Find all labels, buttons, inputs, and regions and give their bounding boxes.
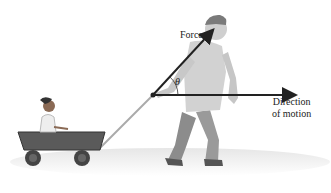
direction-label-line1: Direction bbox=[272, 96, 311, 108]
direction-label-line2: of motion bbox=[272, 108, 311, 120]
force-label: Force bbox=[180, 29, 203, 41]
vector-origin bbox=[151, 93, 156, 98]
angle-label: θ bbox=[175, 76, 180, 88]
wagon-force-diagram: Force θ Direction of motion bbox=[0, 0, 331, 193]
wagon-handle bbox=[100, 95, 153, 148]
child bbox=[40, 97, 68, 132]
direction-label: Direction of motion bbox=[272, 96, 311, 120]
